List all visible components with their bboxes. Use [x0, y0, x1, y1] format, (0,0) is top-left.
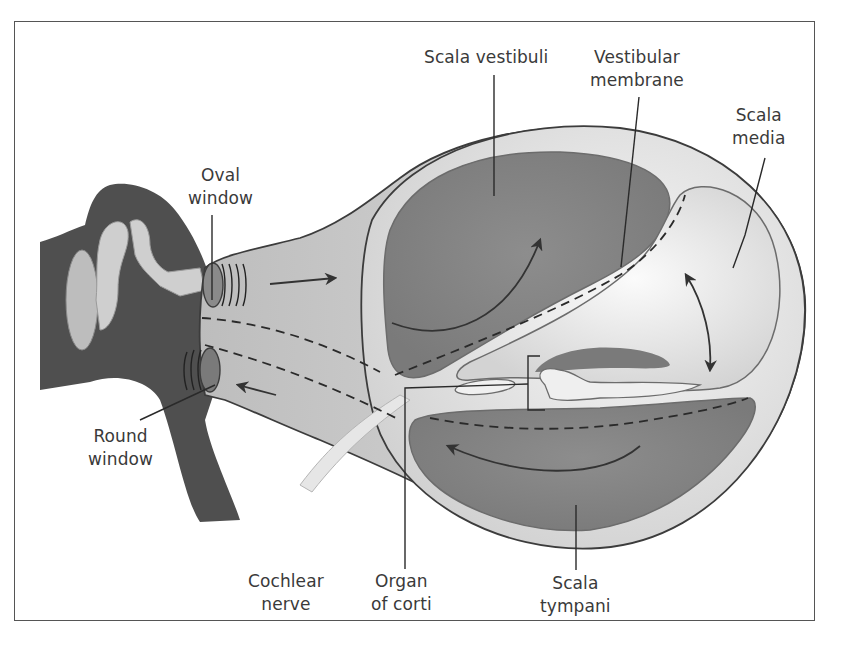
- label-oval-window: Oval window: [188, 164, 253, 210]
- label-text: media: [732, 127, 785, 150]
- label-text: Vestibular: [590, 46, 684, 69]
- label-text: membrane: [590, 69, 684, 92]
- cochlea-diagram: [0, 0, 841, 649]
- label-text: Organ: [371, 570, 432, 593]
- label-text: window: [188, 187, 253, 210]
- label-vestibular-membrane: Vestibular membrane: [590, 46, 684, 92]
- label-scala-vestibuli: Scala vestibuli: [424, 46, 548, 69]
- label-text: Scala: [732, 104, 785, 127]
- label-round-window: Round window: [88, 425, 153, 471]
- label-text: of corti: [371, 593, 432, 616]
- label-text: nerve: [248, 593, 324, 616]
- label-text: Round: [88, 425, 153, 448]
- label-text: tympani: [540, 595, 611, 618]
- label-text: window: [88, 448, 153, 471]
- label-text: Scala: [540, 572, 611, 595]
- label-text: Cochlear: [248, 570, 324, 593]
- label-text: Oval: [188, 164, 253, 187]
- tympanic-disc: [66, 250, 98, 350]
- label-scala-tympani: Scala tympani: [540, 572, 611, 618]
- label-organ-of-corti: Organ of corti: [371, 570, 432, 616]
- label-scala-media: Scala media: [732, 104, 785, 150]
- label-cochlear-nerve: Cochlear nerve: [248, 570, 324, 616]
- label-text: Scala vestibuli: [424, 47, 548, 67]
